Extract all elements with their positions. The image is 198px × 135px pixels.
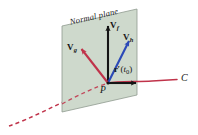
tangent-close-paren: ) <box>129 64 132 74</box>
vector-v-g-subscript: g <box>74 46 77 53</box>
point-p-label: P <box>100 86 106 96</box>
vector-v-f-subscript: f <box>117 24 119 31</box>
vector-v-f-label: Vf <box>110 21 119 30</box>
vector-v-g-label: Vg <box>67 43 77 52</box>
normal-plane-figure: Normal plane Vf Vh Vg r′(t0) P C <box>0 0 198 135</box>
vector-v-h-label: Vh <box>123 33 133 42</box>
vector-v-g-symbol: V <box>67 42 74 52</box>
vector-v-h-symbol: V <box>123 32 130 42</box>
tangent-t-subscript: 0 <box>126 68 129 75</box>
point-p-marker <box>107 82 110 85</box>
curve-c-label: C <box>181 73 188 83</box>
vector-v-f-symbol: V <box>110 20 117 30</box>
vector-v-h-subscript: h <box>130 36 134 43</box>
tangent-prime-symbol: ′ <box>118 64 121 74</box>
tangent-vector-label: r′(t0) <box>114 65 132 74</box>
